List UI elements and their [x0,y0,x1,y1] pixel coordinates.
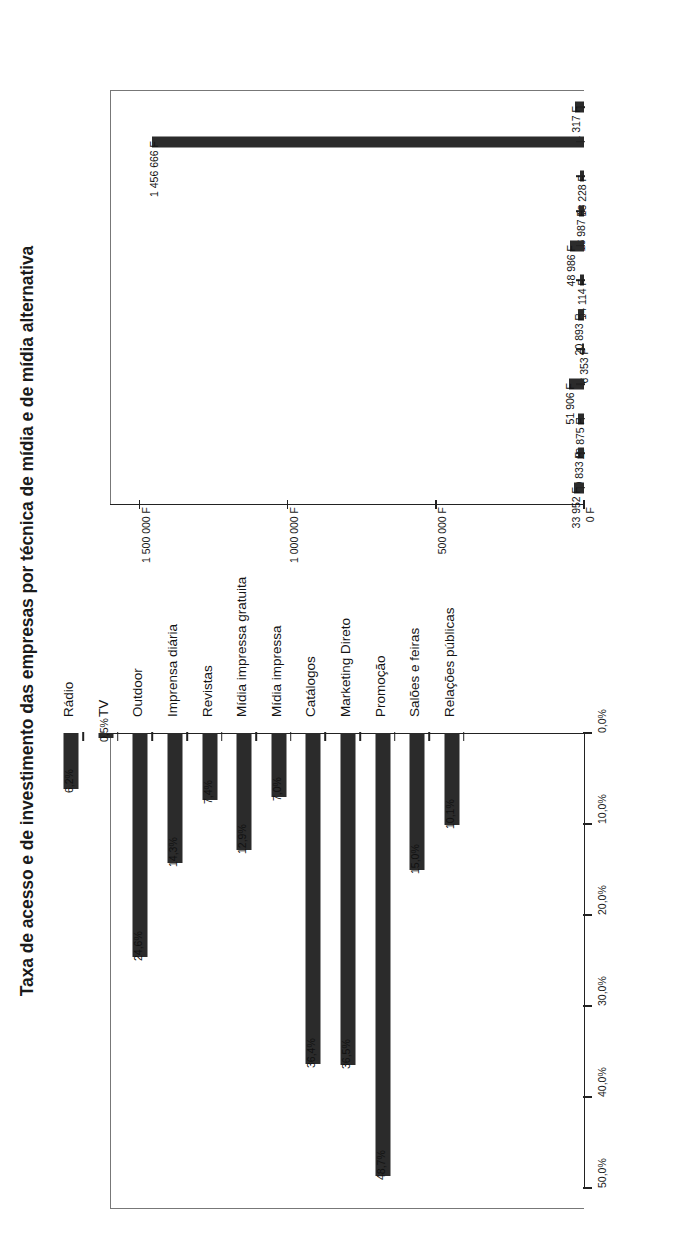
chart-title-container: Taxa de acesso e de investimento das emp… [0,0,54,1241]
access-rate-bar-column: 14,3% [158,733,193,1188]
access-rate-axis-tick-label: 0,0% [596,709,608,733]
category-label: Relações públicas [442,607,457,717]
access-rate-category-tick [325,732,327,741]
access-rate-bar-column: 12,9% [227,733,262,1188]
access-rate-bar-value-label: 10,1% [444,799,456,829]
chart-board: 0 F500 000 F1 000 000 F1 500 000 F 31 31… [54,0,695,1241]
access-rate-bar-column: 0,5% [89,733,124,1188]
category-label: Outdoor [130,668,145,717]
access-rate-bar-value-label: 12,9% [236,825,248,855]
category-label: Rádio [61,682,76,717]
access-rate-bar-column: 7,4% [192,733,227,1188]
access-rate-axis-tick-label: 40,0% [596,1067,608,1097]
access-rate-bar-column: 36,4% [296,733,331,1188]
access-rate-bar[interactable] [340,733,355,1065]
investment-panel: 0 F500 000 F1 000 000 F1 500 000 F 31 31… [54,90,639,505]
access-rate-bar-value-label: 36,5% [340,1039,352,1069]
access-rate-bar-value-label: 48,7% [375,1150,387,1180]
category-labels: RádioTVOutdoorImprensa diáriaRevistasMíd… [54,505,639,733]
access-rate-bar-value-label: 7,0% [271,777,283,801]
access-rate-bar[interactable] [375,733,390,1176]
access-rate-axis-tick-label: 20,0% [596,885,608,915]
access-rate-bar-column: 10,1% [434,733,469,1188]
access-rate-category-tick [186,732,188,741]
access-rate-bar-column: 15,0% [400,733,435,1188]
investment-bar-row: 16 987 F [110,196,584,226]
category-label: Salões e feiras [407,628,422,717]
category-label: Mídia impressa gratuita [234,577,249,717]
category-label: Imprensa diária [165,624,180,717]
category-label: Catálogos [303,656,318,717]
access-rate-bar-column: 7,0% [262,733,297,1188]
investment-bar-row: 6 353 F [110,334,584,364]
access-rate-category-tick [463,732,465,741]
access-rate-bar[interactable] [306,733,321,1064]
access-rate-category-tick [152,732,154,741]
access-rate-bar-value-label: 24,6% [132,931,144,961]
access-rate-category-tick [117,732,119,741]
access-rate-bar-value-label: 15,0% [409,844,421,874]
access-rate-bar-column: 36,5% [331,733,366,1188]
access-rate-bar[interactable] [133,733,148,957]
access-rate-axis-tick-label: 10,0% [596,794,608,824]
investment-bar-row: 31 317 F [110,92,584,122]
access-rate-bar-value-label: 36,4% [305,1038,317,1068]
investment-bar[interactable] [152,136,584,147]
access-rate-category-tick [394,732,396,741]
investment-category-tick [576,141,585,143]
access-rate-bar-value-label: 14,3% [167,837,179,867]
category-label: TV [96,700,111,717]
category-label: Marketing Direto [338,618,353,717]
page-title: Taxa de acesso e de investimento das emp… [17,245,38,995]
investment-bar-row: 20 833 F [110,438,584,468]
investment-bar-row: 48 986 F [110,231,584,261]
access-rate-category-tick [428,732,430,741]
access-rate-axis-spine [584,733,585,1188]
investment-bar-row: 20 893 F [110,300,584,330]
access-rate-bar-value-label: 7,4% [202,780,214,804]
investment-category-tick [576,383,585,385]
category-label: Promoção [373,655,388,717]
access-rate-category-tick [290,732,292,741]
access-rate-axis-tick-label: 30,0% [596,976,608,1006]
access-rate-bar-value-label: 0,5% [98,718,110,742]
investment-bar-row: 19 875 F [110,404,584,434]
access-rate-bar-column: 24,6% [123,733,158,1188]
access-rate-axis-tick-label: 50,0% [596,1158,608,1188]
investment-bar-row: 14 114 F [110,265,584,295]
access-rate-category-tick [82,732,84,741]
investment-bar-row: 13 228 F [110,161,584,191]
category-label: Mídia impressa [269,625,284,717]
access-rate-panel: 0,0%10,0%20,0%30,0%40,0%50,0% 6,2%0,5%24… [54,733,639,1233]
category-label: Revistas [200,665,215,717]
access-rate-category-tick [221,732,223,741]
investment-bar-row: 51 906 F [110,369,584,399]
investment-bar-row: 1 456 666 F [110,127,584,157]
access-rate-bar-column: 48,7% [365,733,400,1188]
investment-bar-row: 33 952 F [110,473,584,503]
access-rate-category-tick [359,732,361,741]
access-rate-bar-value-label: 6,2% [63,769,75,793]
access-rate-category-tick [255,732,257,741]
access-rate-bar-column: 6,2% [54,733,89,1188]
